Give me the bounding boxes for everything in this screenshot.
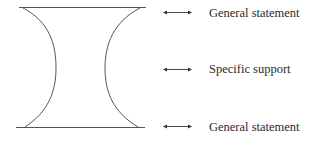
left-curve: [23, 8, 56, 127]
label-specific-support: Specific support: [209, 62, 291, 76]
label-general-statement-top: General statement: [209, 6, 300, 20]
double-arrow-icon: [163, 11, 192, 15]
label-general-statement-bottom: General statement: [209, 120, 300, 134]
right-curve: [105, 8, 140, 127]
double-arrow-icon: [163, 68, 192, 72]
double-arrow-icon: [163, 125, 192, 129]
